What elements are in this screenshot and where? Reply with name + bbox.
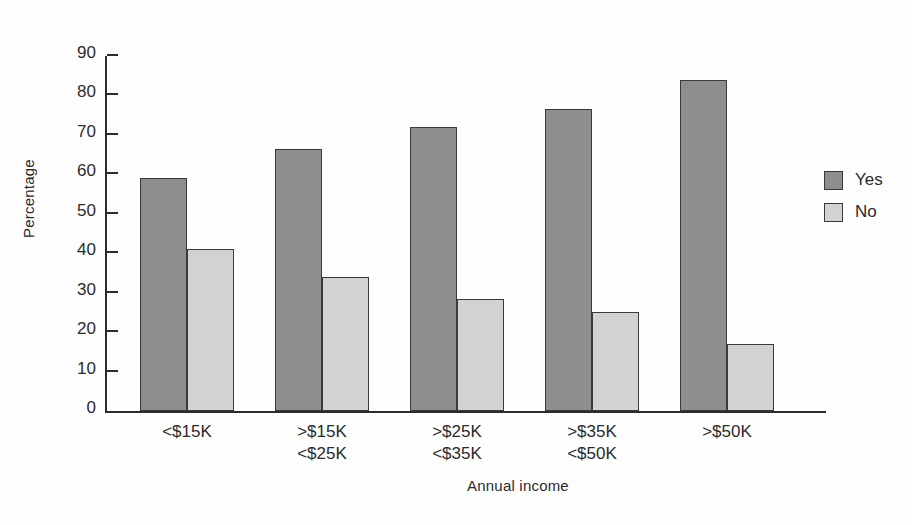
y-tick-label: 70: [77, 123, 96, 141]
bar-group: [410, 56, 504, 411]
y-tick: 30: [105, 291, 118, 293]
y-tick-label: 30: [77, 281, 96, 299]
bar-no: [727, 344, 774, 411]
bar-yes: [545, 109, 592, 411]
x-tick-label: >$35K<$50K: [517, 421, 667, 465]
bar-group: [680, 56, 774, 411]
bar-yes: [680, 80, 727, 411]
legend-label: Yes: [855, 170, 883, 190]
legend-swatch: [824, 171, 843, 190]
legend: YesNo: [824, 164, 883, 228]
bar-group: [275, 56, 369, 411]
bar-group: [545, 56, 639, 411]
x-axis-line: [105, 411, 826, 413]
y-tick: 70: [105, 133, 118, 135]
x-tick-label-line1: >$25K: [432, 422, 482, 441]
bar-group: [140, 56, 234, 411]
bar-yes: [275, 149, 322, 411]
y-tick-label: 60: [77, 162, 96, 180]
bar-no: [457, 299, 504, 411]
y-tick-mark: [107, 370, 118, 372]
bar-no: [592, 312, 639, 411]
legend-item-no: No: [824, 196, 883, 228]
x-tick-label: >$50K: [652, 421, 802, 443]
y-tick-label: 40: [77, 241, 96, 259]
y-tick-label: 0: [87, 399, 96, 417]
x-tick-label-line2: <$35K: [382, 443, 532, 465]
y-tick-mark: [107, 291, 118, 293]
y-tick: 50: [105, 212, 118, 214]
y-tick-label: 80: [77, 83, 96, 101]
x-tick-label-line2: <$25K: [247, 443, 397, 465]
x-tick-label: >$15K<$25K: [247, 421, 397, 465]
y-tick: 40: [105, 251, 118, 253]
x-axis-title: Annual income: [105, 477, 912, 494]
y-tick-mark: [107, 54, 118, 56]
y-tick-mark: [107, 330, 118, 332]
bar-yes: [140, 178, 187, 411]
y-tick-label: 50: [77, 202, 96, 220]
y-tick: 80: [105, 93, 118, 95]
x-tick-label-line1: <$15K: [162, 422, 212, 441]
y-tick-mark: [107, 172, 118, 174]
bar-no: [322, 277, 369, 411]
bar-yes: [410, 127, 457, 411]
plot-area: 9080706050403020100: [105, 56, 826, 413]
y-tick-mark: [107, 212, 118, 214]
y-tick: 0: [105, 409, 118, 411]
y-axis-line: [105, 56, 107, 413]
y-tick-mark: [107, 93, 118, 95]
bar-chart-figure: Percentage 9080706050403020100 <$15K>$15…: [0, 0, 912, 525]
y-tick: 20: [105, 330, 118, 332]
x-tick-label: >$25K<$35K: [382, 421, 532, 465]
x-tick-label-line1: >$35K: [567, 422, 617, 441]
x-tick-label-line2: <$50K: [517, 443, 667, 465]
legend-item-yes: Yes: [824, 164, 883, 196]
x-tick-label-line1: >$15K: [297, 422, 347, 441]
y-axis-title: Percentage: [20, 119, 37, 279]
x-tick-label-line1: >$50K: [702, 422, 752, 441]
y-tick-label: 90: [77, 44, 96, 62]
bar-no: [187, 249, 234, 411]
y-tick-mark: [107, 133, 118, 135]
y-tick-label: 10: [77, 360, 96, 378]
y-tick: 60: [105, 172, 118, 174]
y-tick: 10: [105, 370, 118, 372]
legend-swatch: [824, 203, 843, 222]
x-tick-label: <$15K: [112, 421, 262, 443]
y-tick-label: 20: [77, 320, 96, 338]
legend-label: No: [855, 202, 877, 222]
y-tick-mark: [107, 251, 118, 253]
y-tick: 90: [105, 54, 118, 56]
